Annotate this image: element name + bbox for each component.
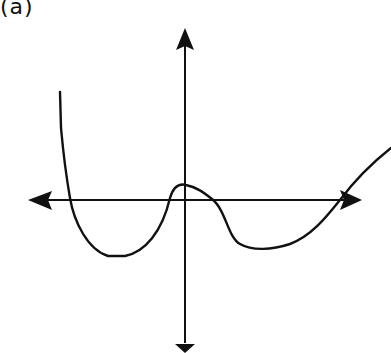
x-axis bbox=[28, 190, 362, 210]
function-graph bbox=[0, 0, 391, 353]
y-axis-down-arrow-icon bbox=[175, 344, 195, 353]
y-axis bbox=[175, 28, 195, 353]
function-curve bbox=[60, 92, 391, 256]
